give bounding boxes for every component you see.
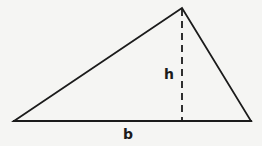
height-label: h — [164, 67, 174, 81]
triangle-figure — [0, 0, 262, 146]
triangle-diagram-canvas: h b — [0, 0, 262, 146]
base-label: b — [123, 127, 133, 141]
triangle-outline — [14, 8, 251, 121]
